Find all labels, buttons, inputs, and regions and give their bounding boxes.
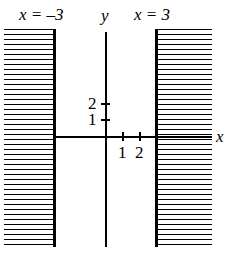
label-right-asymptote: x = 3 bbox=[134, 6, 170, 23]
coordinate-plane-figure: x = –3 x = 3 y x 1 2 1 2 bbox=[0, 0, 229, 255]
y-axis-tick-1 bbox=[101, 119, 110, 121]
y-axis-tick-2 bbox=[101, 103, 110, 105]
label-left-asymptote: x = –3 bbox=[19, 6, 64, 23]
vertical-asymptote-line-right bbox=[155, 29, 158, 247]
x-axis-tick-label-1: 1 bbox=[118, 144, 127, 161]
x-axis-tick-label-2: 2 bbox=[135, 144, 144, 161]
x-axis-label: x bbox=[216, 128, 224, 145]
vertical-asymptote-line-left bbox=[53, 29, 56, 247]
y-axis-tick-label-1: 1 bbox=[88, 111, 97, 128]
x-axis-tick-1 bbox=[122, 132, 124, 141]
y-axis-label: y bbox=[101, 7, 109, 24]
y-axis-tick-label-2: 2 bbox=[88, 95, 97, 112]
hatched-region-right bbox=[158, 29, 212, 247]
x-axis-tick-2 bbox=[139, 132, 141, 141]
x-axis-line bbox=[54, 136, 212, 138]
hatched-region-left bbox=[4, 29, 54, 247]
y-axis-line bbox=[105, 32, 107, 247]
